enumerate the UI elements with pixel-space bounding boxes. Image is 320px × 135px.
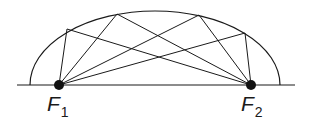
focus-subscript: 1 [61, 104, 69, 120]
focus-name: F [47, 92, 60, 115]
focus-point-f1 [54, 80, 64, 90]
focus-subscript: 2 [255, 104, 263, 120]
focus-point-f2 [246, 80, 256, 90]
focus-label-f2: F2 [241, 92, 262, 116]
focus-name: F [241, 92, 254, 115]
focus-label-f1: F1 [47, 92, 68, 116]
rays-from-f2 [67, 14, 251, 85]
